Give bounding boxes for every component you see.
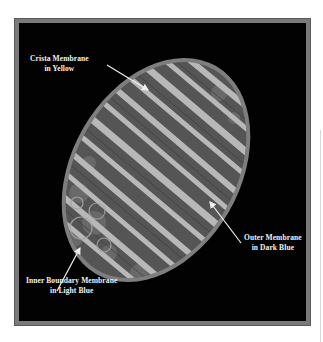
crista-membrane-label: Crista Membrane in Yellow [30,54,89,74]
inner-label-line2: in Light Blue [26,286,117,296]
inner-boundary-membrane-label: Inner Boundary Membrane in Light Blue [26,276,117,296]
crista-label-line2: in Yellow [30,64,89,74]
inner-label-line1: Inner Boundary Membrane [26,276,117,286]
crista-label-line1: Crista Membrane [30,54,89,64]
figure-canvas: Crista Membrane in Yellow Outer Membrane… [19,23,306,321]
outer-membrane-label: Outer Membrane in Dark Blue [244,233,302,253]
page-edge-rule [320,130,321,342]
outer-label-line2: in Dark Blue [244,243,302,253]
outer-label-line1: Outer Membrane [244,233,302,243]
figure-frame: Crista Membrane in Yellow Outer Membrane… [14,18,311,326]
